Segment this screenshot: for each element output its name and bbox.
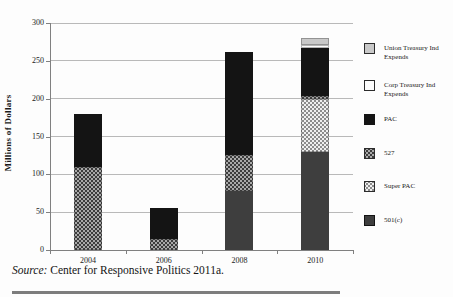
y-axis-title: Millions of Dollars [3, 73, 13, 193]
legend-label: Corp Treasury IndExpends [384, 81, 435, 99]
bar-segment-pac [225, 52, 253, 155]
legend-label: Union Treasury IndExpends [384, 44, 439, 62]
legend-swatch-icon [364, 148, 375, 159]
y-tick-mark [46, 137, 50, 138]
x-tick-mark [126, 251, 127, 254]
x-tick-mark [202, 251, 203, 254]
legend-label: PAC [384, 115, 397, 124]
bar-segment-527 [301, 96, 329, 99]
x-tick-label: 2010 [277, 256, 353, 265]
bar-segment-pac [301, 48, 329, 96]
legend-label: Super PAC [384, 182, 415, 191]
bar-segment-union-treasury-ind-expends [301, 38, 329, 45]
bar-segment-527 [150, 239, 178, 250]
bar-segment-corp-treasury-ind-expends [301, 45, 329, 48]
y-tick-label: 250 [14, 57, 44, 65]
plot-area [50, 23, 353, 250]
bar-2010 [301, 23, 329, 250]
y-tick-label: 100 [14, 170, 44, 178]
legend-swatch-icon [364, 43, 375, 54]
legend-label: 501(c) [384, 216, 402, 225]
y-axis-line [50, 23, 51, 250]
source-text: Center for Responsive Politics 2011a. [47, 264, 224, 276]
legend-swatch-icon [364, 80, 375, 91]
bar-segment-527 [225, 155, 253, 191]
y-tick-label: 0 [14, 246, 44, 254]
y-tick-mark [46, 99, 50, 100]
y-tick-mark [46, 61, 50, 62]
bar-segment-527 [74, 167, 102, 250]
bar-2006 [150, 23, 178, 250]
y-tick-label: 200 [14, 95, 44, 103]
bar-segment-501-c- [225, 191, 253, 250]
bar-segment-pac [74, 114, 102, 167]
legend-swatch-icon [364, 181, 375, 192]
x-tick-mark [353, 251, 354, 254]
bar-2004 [74, 23, 102, 250]
bottom-rule [12, 291, 340, 294]
legend-label: 527 [384, 149, 395, 158]
y-tick-mark [46, 23, 50, 24]
bar-segment-pac [150, 208, 178, 238]
y-tick-mark [46, 174, 50, 175]
source-line: Source: Center for Responsive Politics 2… [12, 264, 224, 276]
legend-swatch-icon [364, 114, 375, 125]
figure: Millions of Dollars 050100150200250300 2… [0, 0, 453, 297]
y-tick-label: 50 [14, 208, 44, 216]
y-tick-mark [46, 212, 50, 213]
bar-2008 [225, 23, 253, 250]
bar-segment-501-c- [301, 152, 329, 250]
y-tick-label: 300 [14, 19, 44, 27]
x-tick-mark [277, 251, 278, 254]
bar-segment-super-pac [301, 99, 329, 152]
source-label: Source: [12, 264, 47, 276]
x-tick-mark [50, 251, 51, 254]
y-tick-label: 150 [14, 133, 44, 141]
legend-swatch-icon [364, 215, 375, 226]
